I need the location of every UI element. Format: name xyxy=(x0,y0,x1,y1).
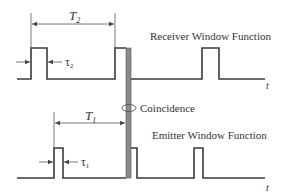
emitter-title: Emitter Window Function xyxy=(152,129,267,141)
window-function-diagram: T2 τ2 Receiver Window Function t Coincid… xyxy=(0,0,281,196)
emitter-width-label: τ1 xyxy=(81,155,90,170)
receiver-waveform xyxy=(17,48,265,79)
coincidence-bar xyxy=(126,48,131,178)
receiver-period-label: T2 xyxy=(69,8,80,25)
receiver-width-label: τ2 xyxy=(65,55,74,70)
emitter-time-axis-label: t xyxy=(266,182,269,193)
emitter-waveform xyxy=(17,148,265,178)
receiver-time-axis-label: t xyxy=(266,80,269,91)
receiver-title: Receiver Window Function xyxy=(150,30,271,42)
coincidence-label: Coincidence xyxy=(140,102,195,114)
emitter-period-label: T1 xyxy=(85,108,96,125)
